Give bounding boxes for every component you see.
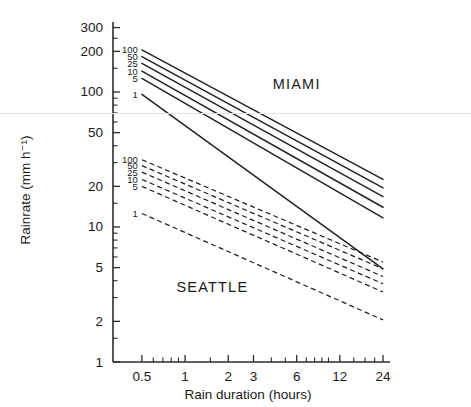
curve-label-miami-1: 1 <box>133 89 138 100</box>
y-ticklabel-5: 5 <box>95 260 103 275</box>
x-ticklabel-0.5: 0.5 <box>133 369 152 384</box>
y-ticklabel-300: 300 <box>80 20 103 35</box>
x-ticklabel-3: 3 <box>250 369 258 384</box>
curve-seattle-5 <box>142 186 383 292</box>
curve-seattle-25 <box>142 172 383 276</box>
curve-miami-25 <box>142 63 383 196</box>
curve-miami-100 <box>142 50 383 180</box>
x-ticklabel-6: 6 <box>293 369 301 384</box>
y-ticklabel-10: 10 <box>88 219 103 234</box>
y-axis-title: Rainrate (mm h⁻¹) <box>18 135 33 244</box>
curve-miami-5 <box>142 78 383 217</box>
curve-label-seattle-1: 1 <box>133 208 138 219</box>
x-axis-title: Rain duration (hours) <box>185 387 312 402</box>
x-ticklabel-12: 12 <box>332 369 347 384</box>
curve-miami-50 <box>142 57 383 188</box>
y-ticklabel-2: 2 <box>95 314 103 329</box>
rainfall-intensity-duration-chart: 1251020501002003000.51236122410050251051… <box>0 0 471 407</box>
annotation-seattle: SEATTLE <box>176 279 248 295</box>
curve-label-seattle-5: 5 <box>133 181 138 192</box>
x-ticklabel-1: 1 <box>181 369 189 384</box>
chart-canvas: 1251020501002003000.51236122410050251051… <box>0 0 471 407</box>
y-ticklabel-50: 50 <box>88 125 103 140</box>
curve-seattle-10 <box>142 179 383 283</box>
curve-label-miami-5: 5 <box>133 73 138 84</box>
curve-miami-10 <box>142 71 383 207</box>
curve-miami-1 <box>142 94 383 268</box>
curve-seattle-100 <box>142 160 383 262</box>
x-ticklabel-2: 2 <box>224 369 232 384</box>
y-ticklabel-20: 20 <box>88 179 103 194</box>
annotation-miami: MIAMI <box>273 76 321 92</box>
x-ticklabel-24: 24 <box>375 369 391 384</box>
y-ticklabel-100: 100 <box>80 84 103 99</box>
y-ticklabel-200: 200 <box>80 44 103 59</box>
y-ticklabel-1: 1 <box>95 355 103 370</box>
curve-seattle-1 <box>142 213 383 319</box>
